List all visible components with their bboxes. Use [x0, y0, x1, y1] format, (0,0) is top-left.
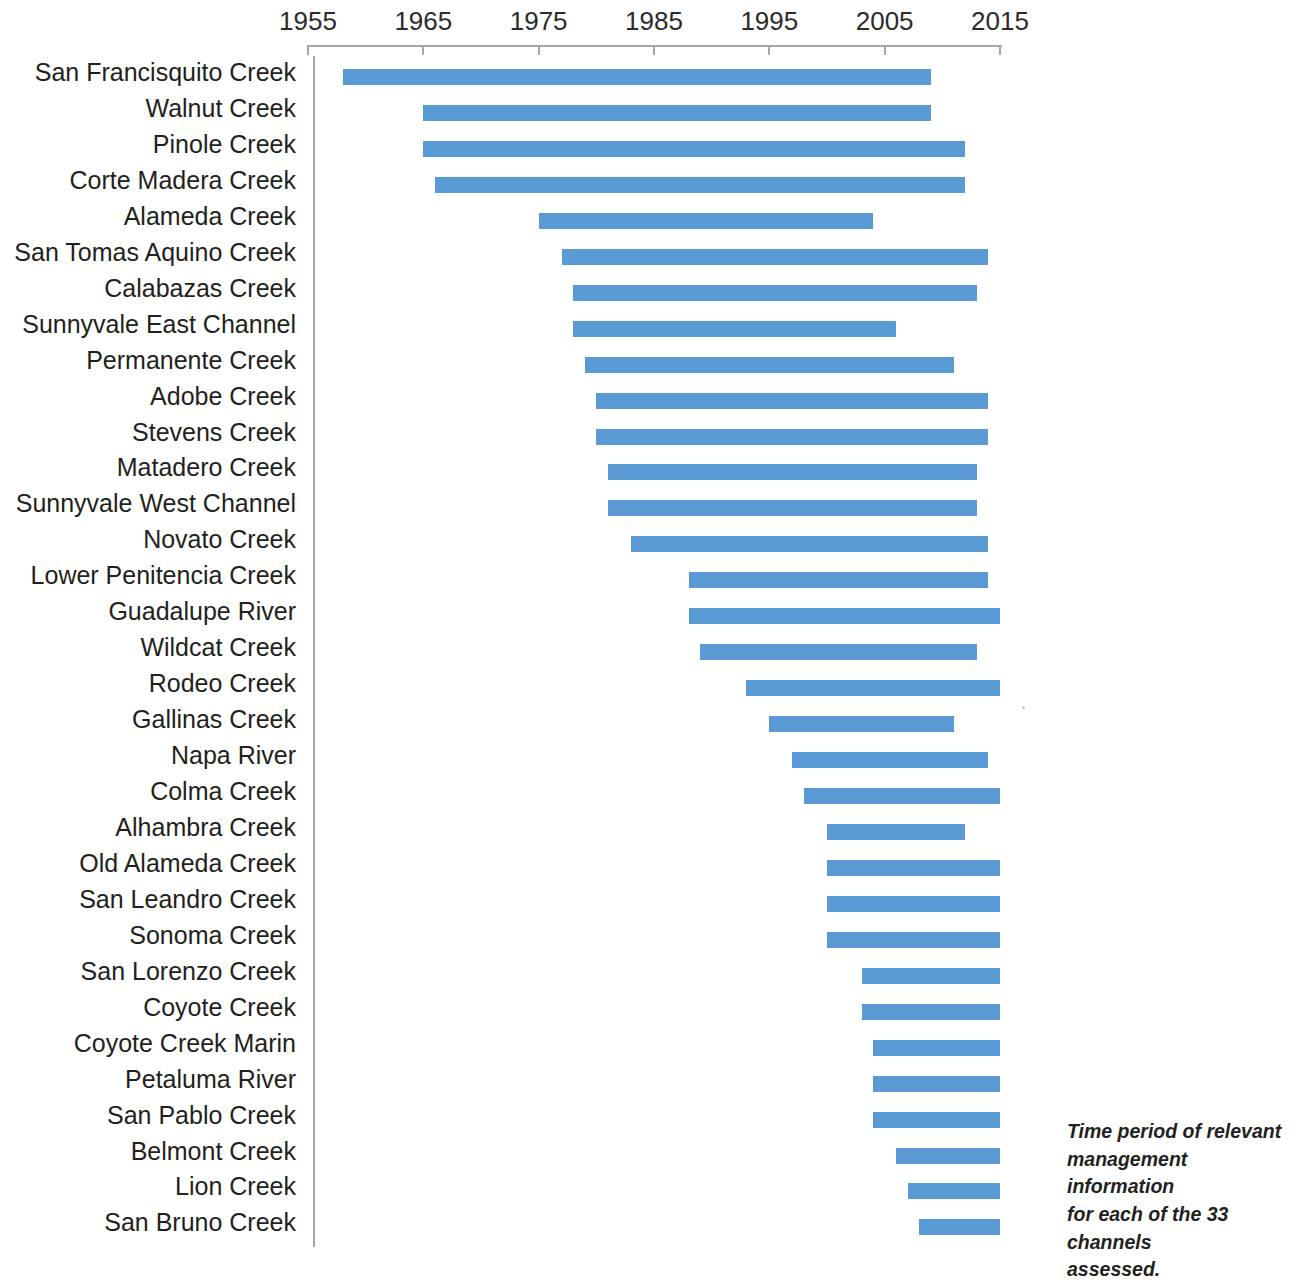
bar: [862, 968, 1000, 984]
x-axis-tick-label: 1995: [740, 6, 798, 37]
bar: [596, 429, 988, 445]
category-label: Old Alameda Creek: [79, 851, 296, 876]
x-axis-tick-mark: [768, 45, 770, 55]
category-label: Matadero Creek: [117, 455, 296, 480]
category-label: San Bruno Creek: [104, 1210, 296, 1235]
category-label: Walnut Creek: [145, 96, 296, 121]
bar: [343, 69, 931, 85]
category-label: Sunnyvale East Channel: [22, 312, 296, 337]
x-axis-tick-label: 2015: [971, 6, 1029, 37]
category-label: Alameda Creek: [124, 204, 296, 229]
category-label: Wildcat Creek: [140, 635, 296, 660]
x-axis-tick-label: 1965: [394, 6, 452, 37]
x-axis-line: [308, 45, 1002, 47]
category-label: Petaluma River: [125, 1067, 296, 1092]
x-axis-tick-mark: [307, 45, 309, 55]
caption-line: management information: [1067, 1146, 1297, 1201]
category-label: Alhambra Creek: [115, 815, 296, 840]
bar: [585, 357, 954, 373]
bar: [689, 608, 1000, 624]
category-label: Sonoma Creek: [129, 923, 296, 948]
category-label: Calabazas Creek: [104, 276, 296, 301]
bar: [804, 788, 1000, 804]
bar: [596, 393, 988, 409]
category-label: Adobe Creek: [150, 384, 296, 409]
bar: [827, 896, 1000, 912]
bar: [908, 1183, 1000, 1199]
bar: [896, 1148, 1000, 1164]
category-label: San Francisquito Creek: [35, 60, 296, 85]
bar: [573, 285, 977, 301]
category-label: Permanente Creek: [86, 348, 296, 373]
category-label: Novato Creek: [143, 527, 296, 552]
x-axis-tick-label: 2005: [856, 6, 914, 37]
bar: [827, 932, 1000, 948]
caption-line: for each of the 33 channels: [1067, 1201, 1297, 1256]
bar: [539, 213, 873, 229]
category-label: Lion Creek: [175, 1174, 296, 1199]
category-label: Gallinas Creek: [132, 707, 296, 732]
bar: [746, 680, 1000, 696]
bar: [631, 536, 989, 552]
bar: [435, 177, 966, 193]
category-label: San Pablo Creek: [107, 1103, 296, 1128]
category-label: Coyote Creek Marin: [74, 1031, 296, 1056]
x-axis-tick-mark: [653, 45, 655, 55]
x-axis-tick-mark: [884, 45, 886, 55]
category-label: Guadalupe River: [108, 599, 296, 624]
category-label: San Leandro Creek: [79, 887, 296, 912]
category-label: Rodeo Creek: [149, 671, 296, 696]
category-label: San Tomas Aquino Creek: [14, 240, 296, 265]
x-axis-tick-label: 1975: [510, 6, 568, 37]
bar: [700, 644, 977, 660]
bar: [423, 141, 965, 157]
scan-speck: [1022, 706, 1025, 709]
bar: [873, 1076, 1000, 1092]
bar: [792, 752, 988, 768]
category-label: Lower Penitencia Creek: [31, 563, 296, 588]
category-label: Stevens Creek: [132, 420, 296, 445]
category-label: Sunnyvale West Channel: [16, 491, 296, 516]
category-label: Colma Creek: [150, 779, 296, 804]
bar: [573, 321, 896, 337]
chart-caption: Time period of relevantmanagement inform…: [1067, 1118, 1297, 1280]
x-axis-tick-label: 1985: [625, 6, 683, 37]
bar: [873, 1040, 1000, 1056]
bar: [827, 824, 965, 840]
category-label: Corte Madera Creek: [70, 168, 296, 193]
bar: [562, 249, 989, 265]
category-label: Belmont Creek: [131, 1139, 296, 1164]
category-label: Pinole Creek: [153, 132, 296, 157]
y-axis-line: [313, 56, 315, 1247]
category-label: Napa River: [171, 743, 296, 768]
x-axis-tick-label: 1955: [279, 6, 337, 37]
bar: [769, 716, 954, 732]
bar: [689, 572, 989, 588]
x-axis-tick-mark: [999, 45, 1001, 55]
category-label: Coyote Creek: [143, 995, 296, 1020]
caption-line: assessed.: [1067, 1256, 1297, 1280]
bar: [827, 860, 1000, 876]
bar: [919, 1219, 1000, 1235]
category-label: San Lorenzo Creek: [81, 959, 296, 984]
bar: [873, 1112, 1000, 1128]
x-axis-tick-mark: [422, 45, 424, 55]
bar: [608, 500, 977, 516]
caption-line: Time period of relevant: [1067, 1118, 1297, 1146]
bar: [423, 105, 930, 121]
bar: [608, 464, 977, 480]
x-axis-tick-mark: [538, 45, 540, 55]
bar: [862, 1004, 1000, 1020]
